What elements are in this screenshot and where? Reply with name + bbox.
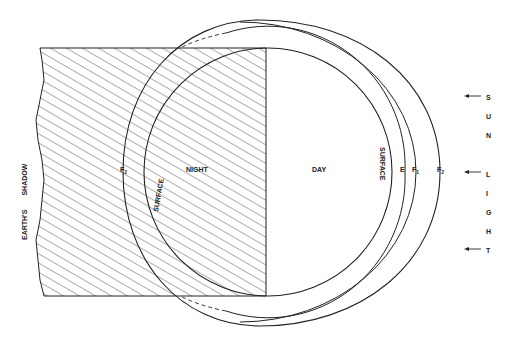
- e-layer-label: E: [400, 166, 405, 173]
- sunlight-letter: S: [486, 94, 491, 101]
- arrow-icon: [464, 94, 481, 98]
- sunlight-letter: G: [486, 209, 492, 216]
- f2-layer-label: F2: [437, 166, 444, 175]
- night-label: NIGHT: [186, 166, 209, 173]
- ionosphere-diagram: EARTH'SSHADOW NIGHT DAY SURFACE SURFACE …: [0, 0, 512, 338]
- day-label: DAY: [312, 166, 326, 173]
- day-surface-label: SURFACE: [379, 147, 386, 181]
- sunlight-letter: L: [486, 171, 491, 178]
- sunlight-letter: H: [486, 228, 491, 235]
- sunlight-letter: N: [486, 132, 491, 139]
- f1-layer-label: F1: [412, 166, 419, 175]
- sunlight-letter: T: [486, 247, 491, 254]
- sunlight-letter: I: [486, 190, 488, 197]
- sunlight-letter: U: [486, 113, 491, 120]
- earths-shadow-region: [30, 48, 266, 296]
- earths-shadow-label: EARTH'SSHADOW: [21, 163, 28, 240]
- arrow-icon: [464, 247, 481, 251]
- arrow-icon: [464, 170, 481, 174]
- sunlight-label: SUNLIGHT: [486, 94, 492, 254]
